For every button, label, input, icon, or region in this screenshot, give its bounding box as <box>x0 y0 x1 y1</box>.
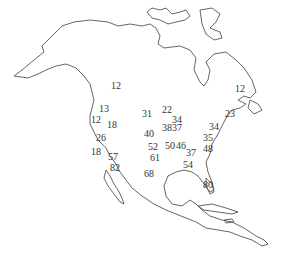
map-value-label: 13 <box>99 104 109 114</box>
north-america-map <box>0 0 285 274</box>
map-value-label: 31 <box>142 109 152 119</box>
map-value-label: 12 <box>235 84 245 94</box>
map-value-label: 48 <box>203 144 213 154</box>
map-value-label: 12 <box>91 115 101 125</box>
arctic-islands-outline <box>147 8 190 24</box>
map-value-label: 37 <box>172 123 182 133</box>
map-value-label: 68 <box>144 169 154 179</box>
cuba-outline <box>198 204 238 214</box>
mainland-outline <box>14 20 268 246</box>
map-value-label: 18 <box>107 120 117 130</box>
map-value-label: 61 <box>150 153 160 163</box>
map-value-label: 12 <box>111 81 121 91</box>
map-value-label: 22 <box>162 105 172 115</box>
map-value-label: 54 <box>183 160 193 170</box>
map-value-label: 57 <box>108 152 118 162</box>
map-value-label: 35 <box>203 133 213 143</box>
map-value-label: 23 <box>225 109 235 119</box>
map-value-label: 46 <box>176 141 186 151</box>
map-value-label: 52 <box>148 142 158 152</box>
map-value-label: 37 <box>186 148 196 158</box>
map-value-label: 18 <box>91 147 101 157</box>
map-value-label: 40 <box>144 129 154 139</box>
baffin-island-outline <box>200 8 222 40</box>
map-value-label: 80 <box>203 180 213 190</box>
baja-california-outline <box>104 170 124 204</box>
map-value-label: 50 <box>165 141 175 151</box>
map-value-label: 38 <box>162 123 172 133</box>
map-value-label: 34 <box>209 122 219 132</box>
map-value-label: 26 <box>96 133 106 143</box>
newfoundland-outline <box>248 100 262 114</box>
map-value-label: 82 <box>110 163 120 173</box>
